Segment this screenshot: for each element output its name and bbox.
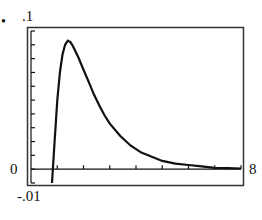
plot-area [0,0,262,220]
plot-frame [28,28,244,186]
data-curve [52,41,241,183]
